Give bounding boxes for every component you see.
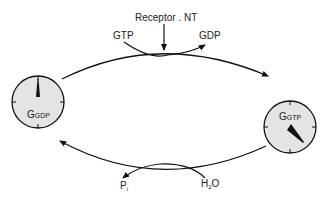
receptor-nt-label: Receptor . NT xyxy=(135,12,197,23)
gdp-label: GDP xyxy=(199,30,221,41)
g-gtp-dial xyxy=(264,101,316,153)
hydrolysis-side-arrow xyxy=(123,164,205,178)
pi-label: Pi xyxy=(120,180,128,192)
g-protein-cycle-diagram: GGDP GGTP Receptor . NT GTP GDP Pi H2O xyxy=(0,0,323,200)
gtp-label: GTP xyxy=(113,30,134,41)
water-label: H2O xyxy=(201,178,220,190)
hydrolysis-arrow xyxy=(60,141,266,169)
activation-arrow xyxy=(62,54,268,79)
g-gdp-dial xyxy=(12,76,64,128)
